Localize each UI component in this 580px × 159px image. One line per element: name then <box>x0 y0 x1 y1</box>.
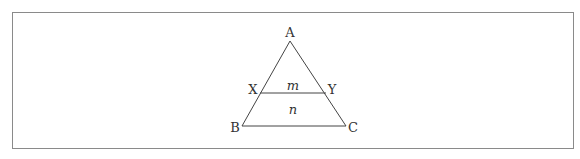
point-label-x: X <box>248 82 258 97</box>
region-label-n: n <box>289 102 297 117</box>
region-label-m: m <box>287 78 299 93</box>
vertex-label-a: A <box>284 25 295 40</box>
point-label-y: Y <box>327 82 337 97</box>
vertex-label-c: C <box>348 120 358 135</box>
figure-canvas: A X Y m n B C <box>0 0 580 159</box>
vertex-label-b: B <box>230 120 240 135</box>
